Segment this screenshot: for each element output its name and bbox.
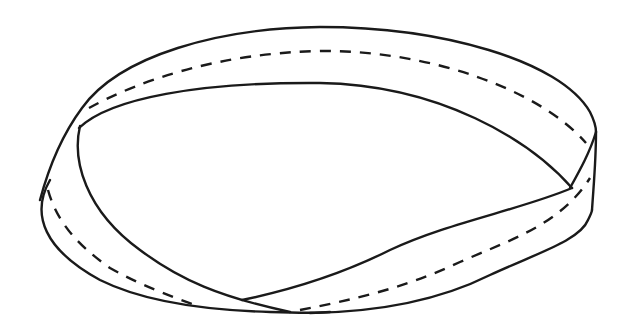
front-lower-edge: [310, 210, 592, 313]
inner-top-edge: [79, 83, 572, 188]
top-centerline: [89, 51, 586, 143]
mobius-strip-figure: [0, 0, 631, 332]
left-centerline: [48, 190, 195, 305]
outer-top-edge: [40, 27, 596, 200]
